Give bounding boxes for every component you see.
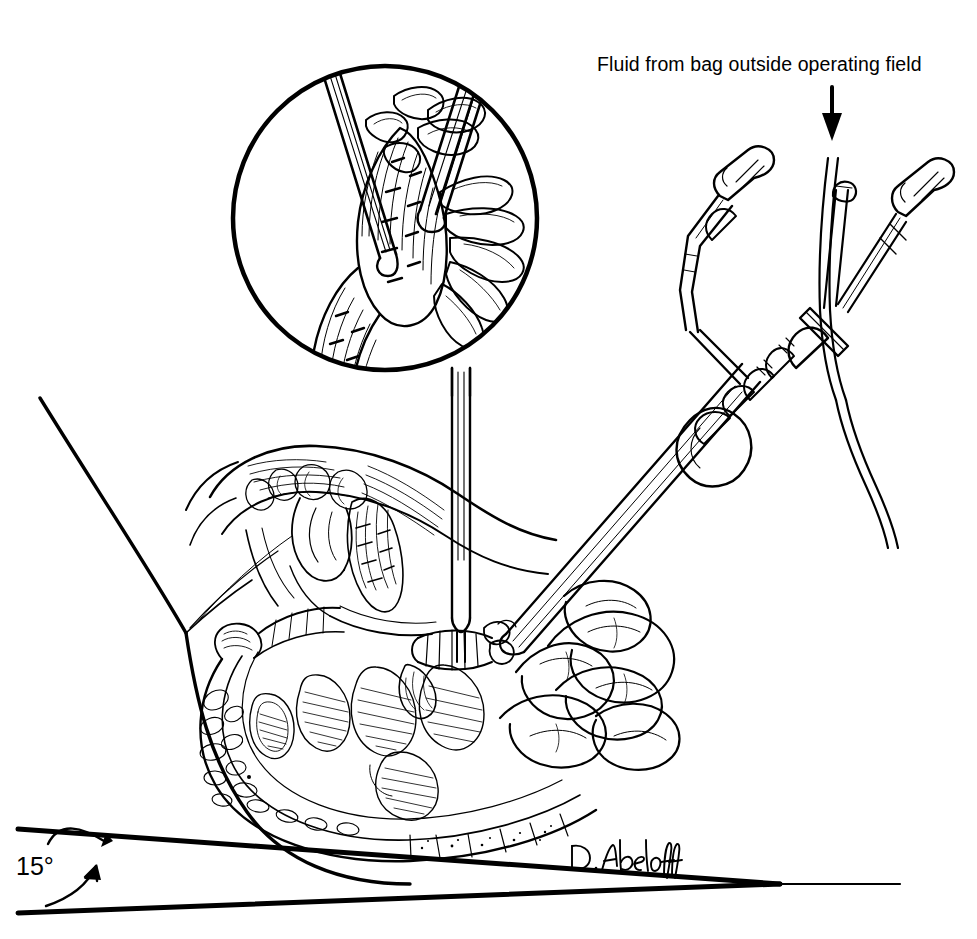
table-tilt-angle-label: 15°: [16, 852, 54, 881]
inset-leader-lines: [452, 368, 470, 396]
trocar-cannula: [452, 368, 470, 662]
omentum-transverse-colon: [186, 446, 556, 635]
operating-table-angle: [18, 829, 900, 913]
appendix: [399, 630, 492, 718]
down-arrow-icon: [822, 87, 842, 141]
irrigation-tubing: [818, 158, 898, 548]
illustration-canvas: [0, 0, 977, 939]
fluid-source-caption: Fluid from bag outside operating field: [597, 53, 922, 76]
magnified-inset: [233, 52, 537, 448]
surgical-illustration-figure: Fluid from bag outside operating field 1…: [0, 0, 977, 939]
angle-arc-icon: [44, 827, 113, 906]
abdominal-wall: [40, 398, 410, 884]
